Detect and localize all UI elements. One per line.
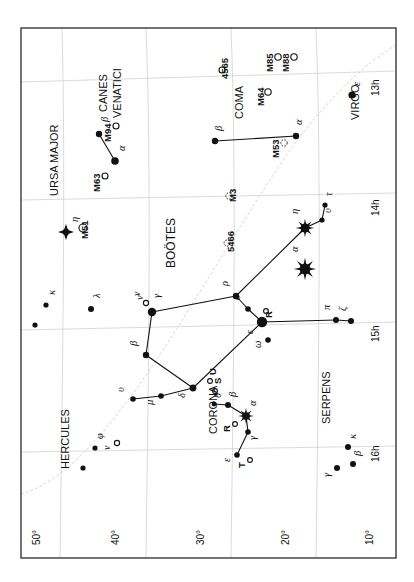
stars-layer: ηκλβαβαεητυαρσενγβδμυωπζθβαγεφκβγ: [32, 81, 363, 477]
constellation-name-corona: CORONA: [207, 385, 219, 434]
star-dot: [350, 461, 356, 467]
galaxy-icon: [248, 458, 253, 463]
deep-sky-label-crb-S: S: [212, 378, 223, 384]
deep-sky-label-crb-T-text: T: [236, 462, 247, 468]
star-label-boo-sm: υ: [115, 387, 126, 392]
star-boo-ups: υ: [319, 208, 333, 223]
grid-line-ra-2: [21, 322, 396, 330]
star-label-boo-nu: ν: [134, 295, 145, 300]
deep-sky-label-m53-text: M53: [270, 140, 281, 158]
deep-sky-label-m63-text: M63: [91, 174, 102, 192]
star-crb-eps: ε: [221, 452, 240, 462]
star-label-uma-kappa-text: κ: [46, 289, 57, 295]
star-dot: [234, 452, 240, 458]
deep-sky-label-m51: M51: [79, 220, 90, 239]
star-dot: [319, 217, 324, 222]
star-burst-8: [294, 258, 316, 280]
star-label-ser-beta-text: β: [352, 450, 363, 457]
star-label-boo-sm-text: υ: [115, 387, 126, 392]
deep-sky-object-crb-R: R: [263, 309, 274, 318]
star-label-uma-eta-text: η: [69, 217, 80, 222]
dec-tick-20deg: 20°: [280, 530, 291, 545]
ra-tick-13h: 13h: [370, 79, 381, 96]
star-boo-tau: τ: [322, 191, 334, 208]
ra-tick-16h-text: 16h: [370, 445, 381, 462]
deep-sky-label-boo-v1-text: ν: [131, 291, 142, 296]
deep-sky-object-n5466: 5466: [224, 231, 236, 252]
deep-sky-label-crb-R: R: [263, 311, 274, 318]
deep-sky-object-her-v: ν: [101, 440, 120, 450]
chart-border: [21, 28, 396, 558]
star-chart-figure: M51M63M944565M64M85M88M53M35466RRTSUννηκ…: [0, 0, 414, 582]
star-uma-lambda: λ: [88, 293, 102, 312]
star-label-boo-mu-text: μ: [144, 400, 155, 406]
star-label-boo-rho: ρ: [219, 281, 230, 287]
star-dot: [245, 429, 251, 435]
star-label-uma-lambda-text: λ: [91, 293, 102, 299]
constellation-name-canes: CANES: [97, 74, 109, 112]
star-label-boo-gamma: γ: [151, 293, 162, 298]
star-label-cvn-beta: β: [99, 116, 110, 123]
deep-sky-label-m3-text: M3: [227, 189, 238, 202]
star-crb-alpha: α: [238, 400, 258, 424]
star-label-boo-zeta-text: ζ: [337, 306, 349, 311]
star-label-cvn-beta-text: β: [99, 116, 110, 123]
ra-tick-14h: 14h: [370, 199, 381, 216]
star-dot: [130, 396, 136, 402]
star-dot: [148, 308, 156, 316]
star-ser-beta: β: [350, 450, 363, 467]
star-burst-8: [296, 219, 314, 237]
deep-sky-label-n5466-text: 5466: [225, 231, 236, 252]
constellation-name-ursa-major: URSA MAJOR: [48, 124, 60, 196]
deep-sky-object-m63: M63: [91, 173, 108, 192]
star-dot: [293, 133, 299, 139]
cluster-icon: [281, 140, 287, 146]
deep-sky-label-m85: M85: [264, 53, 275, 72]
star-dot: [158, 393, 164, 399]
dec-tick-40deg: 40°: [110, 530, 121, 545]
star-label-com-beta: β: [213, 125, 224, 132]
star-boo-omega: ω: [252, 337, 271, 348]
star-label-boo-omega: ω: [252, 341, 263, 348]
star-label-boo-alpha: α: [289, 246, 300, 252]
deep-sky-label-n4565: 4565: [219, 57, 230, 79]
grid-line-ra-0: [21, 71, 396, 82]
constellation-name-virgo: VIRGO: [349, 84, 361, 120]
constellation-name-virgo-text: VIRGO: [349, 84, 361, 120]
star-label-uma-lambda: λ: [91, 293, 102, 299]
dec-tick-10deg-text: 10°: [364, 530, 375, 545]
star-boo-mu: μ: [144, 393, 164, 406]
star-label-boo-gamma-text: γ: [151, 293, 162, 298]
star-burst-8: [238, 408, 254, 424]
star-uma-eta: η: [58, 217, 80, 240]
deep-sky-label-m85-text: M85: [264, 53, 275, 72]
constellation-name-corona-text: CORONA: [207, 385, 219, 434]
grid-layer: [21, 28, 396, 558]
ra-tick-15h-text: 15h: [370, 325, 381, 342]
star-label-boo-nu-text: ν: [134, 295, 145, 300]
deep-sky-object-m64: M64: [255, 87, 271, 106]
star-label-boo-tau: τ: [323, 191, 334, 196]
galaxy-icon: [233, 422, 238, 427]
deep-sky-label-crb-S-text: S: [212, 378, 223, 384]
constellation-line: [146, 355, 193, 388]
star-dot: [111, 157, 119, 165]
deep-sky-label-n5466: 5466: [225, 231, 236, 252]
dec-tick-10deg: 10°: [364, 530, 375, 545]
star-label-ser-kappa: κ: [347, 433, 358, 439]
deep-sky-label-crb-R-text: R: [263, 311, 274, 318]
star-label-crb-eps-text: ε: [221, 457, 232, 462]
star-label-crb-gamma-text: γ: [247, 435, 258, 440]
grid-line-dec-7: [316, 28, 319, 558]
star-label-boo-delta-text: δ: [176, 392, 187, 398]
constellation-line: [236, 228, 305, 296]
star-dot: [92, 445, 97, 450]
deep-sky-object-m94: M94: [102, 123, 119, 142]
star-label-cvn-alpha: α: [116, 145, 127, 151]
star-dot: [88, 306, 94, 312]
deep-sky-label-boo-v1: ν: [131, 291, 142, 296]
star-dot: [212, 138, 218, 144]
constellation-name-venatici: VENATICI: [111, 68, 123, 118]
star-her-s2: [80, 465, 85, 470]
star-label-cvn-alpha-text: α: [116, 145, 127, 151]
